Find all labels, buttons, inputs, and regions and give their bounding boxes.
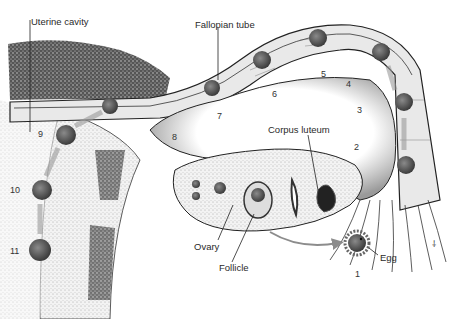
label-follicle: Follicle bbox=[219, 263, 249, 273]
stage-9: 9 bbox=[38, 130, 43, 139]
stage-2: 2 bbox=[354, 143, 359, 152]
egg-icon bbox=[345, 231, 369, 255]
stage-3: 3 bbox=[357, 106, 362, 115]
label-fallopian-tube: Fallopian tube bbox=[195, 20, 255, 30]
label-uterine-cavity: Uterine cavity bbox=[31, 17, 89, 27]
label-egg: Egg bbox=[380, 253, 397, 263]
stage-11: 11 bbox=[10, 247, 19, 256]
stage-6: 6 bbox=[272, 90, 277, 99]
ovulation-arrow bbox=[270, 232, 338, 245]
uterine-wall-upper bbox=[8, 40, 170, 100]
stage-10: 10 bbox=[10, 186, 20, 195]
stage-5: 5 bbox=[321, 70, 326, 79]
stage-7: 7 bbox=[217, 112, 222, 121]
reproductive-diagram: Uterine cavity Fallopian tube Corpus lut… bbox=[0, 0, 453, 319]
stage-1: 1 bbox=[355, 270, 360, 279]
label-ovary: Ovary bbox=[194, 242, 219, 252]
artist-signature: ⸸ bbox=[432, 240, 436, 249]
stage-8: 8 bbox=[172, 133, 177, 142]
label-corpus-luteum: Corpus luteum bbox=[268, 125, 330, 135]
stage-4: 4 bbox=[346, 80, 351, 89]
